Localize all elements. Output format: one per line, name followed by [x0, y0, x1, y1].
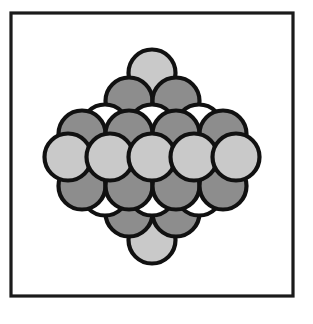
figure-container: Close-packed sphere lattice — [0, 0, 313, 324]
sphere-lattice-diagram — [0, 0, 313, 324]
sphere-r5-c5 — [213, 134, 260, 181]
